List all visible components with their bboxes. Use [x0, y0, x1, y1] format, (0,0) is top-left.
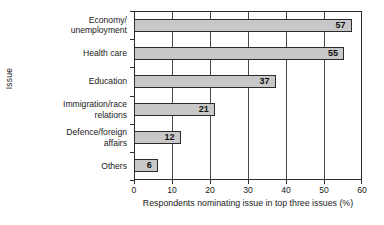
- category-label: Economy/ unemployment: [16, 11, 131, 39]
- bar: 12: [134, 131, 181, 144]
- bar-row: 57: [135, 12, 361, 40]
- x-axis-title: Respondents nominating issue in top thre…: [120, 198, 376, 209]
- x-axis-tick: [248, 180, 249, 184]
- bar: 37: [134, 75, 276, 88]
- bar-row: 21: [135, 95, 361, 123]
- x-axis-tick: [286, 180, 287, 184]
- x-axis-tick-label: 0: [132, 185, 137, 196]
- plot-area: 57 55 37 21 12: [134, 11, 362, 180]
- x-axis-tick-label: 10: [167, 185, 177, 196]
- x-axis-tick-label: 30: [243, 185, 253, 196]
- x-axis-tick: [134, 180, 135, 184]
- category-axis-labels: Economy/ unemployment Health care Educat…: [16, 11, 131, 180]
- x-axis-tick: [210, 180, 211, 184]
- category-label: Health care: [16, 39, 131, 67]
- x-axis-tick-label: 60: [357, 185, 367, 196]
- bar-row: 6: [135, 151, 361, 179]
- category-label: Defence/foreign affairs: [16, 124, 131, 152]
- category-label: Education: [16, 67, 131, 95]
- x-axis-tick: [361, 180, 362, 184]
- bar-row: 55: [135, 40, 361, 68]
- x-axis-tick-label: 50: [319, 185, 329, 196]
- bar-value-label: 37: [260, 77, 275, 86]
- x-axis-tick: [324, 180, 325, 184]
- bar-value-label: 57: [336, 21, 351, 30]
- x-axis-tick-labels: 0102030405060: [134, 185, 362, 197]
- bar: 57: [134, 19, 352, 32]
- x-axis-tick-label: 20: [205, 185, 215, 196]
- y-axis-title: Issue: [5, 75, 14, 89]
- bar-value-label: 6: [147, 161, 157, 170]
- bar-value-label: 55: [328, 49, 343, 58]
- bar: 55: [134, 47, 344, 60]
- x-axis-tick-label: 40: [281, 185, 291, 196]
- x-axis-tick: [172, 180, 173, 184]
- bar-row: 37: [135, 68, 361, 96]
- bar: 21: [134, 103, 215, 116]
- category-label: Others: [16, 152, 131, 180]
- bar-value-label: 12: [165, 133, 180, 142]
- bar-row: 12: [135, 123, 361, 151]
- bar: 6: [134, 159, 158, 172]
- category-label: Immigration/race relations: [16, 96, 131, 124]
- bar-chart: Issue Economy/ unemployment Health care …: [0, 0, 384, 225]
- bar-value-label: 21: [199, 105, 214, 114]
- bar-series: 57 55 37 21 12: [135, 12, 361, 179]
